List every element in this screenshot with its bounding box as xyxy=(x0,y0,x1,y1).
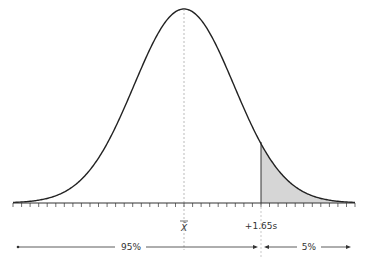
left-arrow-head-icon xyxy=(253,245,258,249)
right-region-label: 5% xyxy=(302,242,317,252)
critical-value-label: +1.65s xyxy=(245,221,278,231)
right-arrow-head-icon xyxy=(346,245,351,249)
normal-curve-diagram: X̄ +1.65s 95% 5% xyxy=(0,0,371,265)
mean-label: X̄ xyxy=(180,222,188,233)
axis-ticks xyxy=(13,203,355,207)
left-region-label: 95% xyxy=(121,242,141,252)
